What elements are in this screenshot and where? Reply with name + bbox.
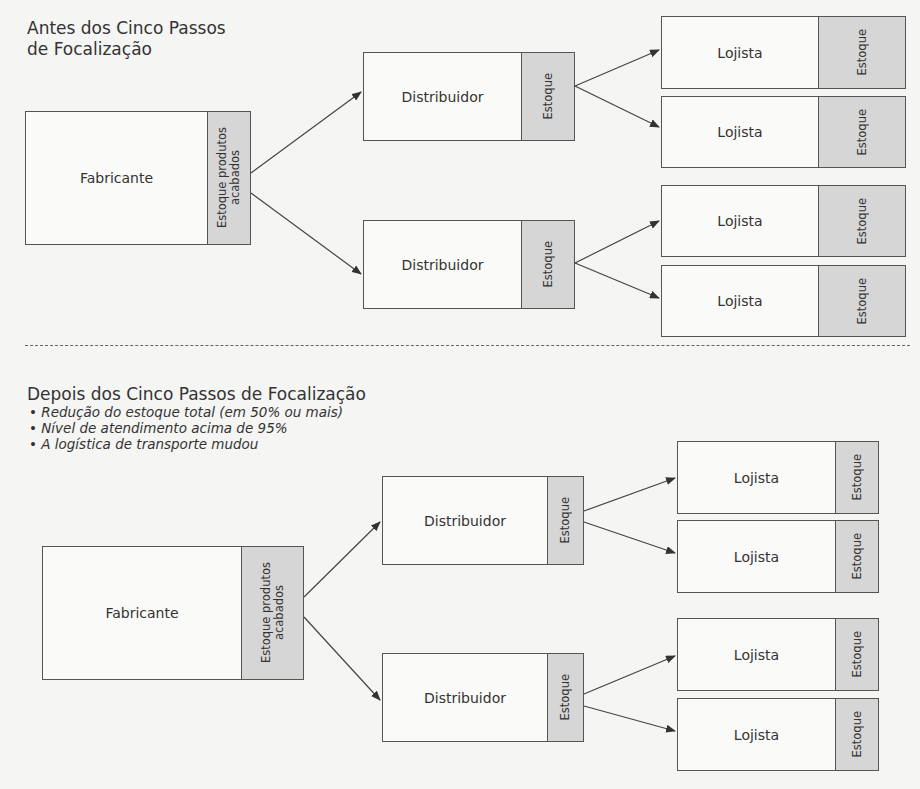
retailer-stock: Estoque — [818, 186, 905, 256]
stock-label: Estoque — [856, 29, 869, 75]
arrow-icon — [584, 656, 675, 694]
distributor-stock: Estoque — [547, 654, 583, 741]
stock-label: Estoque — [851, 454, 864, 500]
stock-label: Estoque produtos acabados — [216, 127, 242, 228]
retailer-stock: Estoque — [835, 442, 878, 513]
arrow-icon — [584, 522, 675, 553]
retailer-stock: Estoque — [835, 619, 878, 690]
after-distributor-2: Distribuidor Estoque — [382, 653, 584, 742]
distributor-stock: Estoque — [521, 53, 574, 140]
distributor-label: Distribuidor — [383, 654, 547, 741]
before-retailer-2: Lojista Estoque — [661, 96, 906, 168]
after-bullet-list: • Redução do estoque total (em 50% ou ma… — [29, 404, 343, 452]
after-retailer-2: Lojista Estoque — [677, 520, 879, 593]
arrow-icon — [584, 706, 675, 731]
arrow-icon — [304, 617, 380, 700]
arrow-icon — [575, 221, 659, 263]
stock-label: Estoque — [542, 241, 555, 287]
section-divider — [25, 345, 910, 346]
before-retailer-1: Lojista Estoque — [661, 16, 906, 89]
distributor-stock: Estoque — [547, 477, 583, 564]
before-title-line1: Antes dos Cinco Passos — [27, 18, 226, 39]
before-title-line2: de Focalização — [27, 39, 226, 60]
stock-label: Estoque — [559, 674, 572, 720]
arrow-icon — [575, 263, 659, 298]
bullet-item: • A logística de transporte mudou — [29, 436, 343, 452]
retailer-label: Lojista — [662, 97, 818, 167]
retailer-stock: Estoque — [818, 17, 905, 88]
manufacturer-label: Fabricante — [43, 547, 241, 679]
retailer-label: Lojista — [678, 619, 835, 690]
bullet-item: • Nível de atendimento acima de 95% — [29, 420, 343, 436]
retailer-label: Lojista — [678, 521, 835, 592]
before-retailer-3: Lojista Estoque — [661, 185, 906, 257]
retailer-label: Lojista — [662, 266, 818, 336]
arrow-icon — [251, 92, 361, 173]
stock-label: Estoque — [856, 278, 869, 324]
retailer-stock: Estoque — [835, 699, 878, 770]
arrow-icon — [575, 86, 659, 127]
stock-label: Estoque — [559, 497, 572, 543]
after-retailer-4: Lojista Estoque — [677, 698, 879, 771]
before-retailer-4: Lojista Estoque — [661, 265, 906, 337]
before-distributor-1: Distribuidor Estoque — [363, 52, 575, 141]
retailer-label: Lojista — [678, 699, 835, 770]
manufacturer-label: Fabricante — [26, 112, 207, 244]
stock-label: Estoque produtos acabados — [260, 562, 286, 663]
after-manufacturer-node: Fabricante Estoque produtos acabados — [42, 546, 304, 680]
arrow-icon — [584, 478, 675, 511]
bullet-item: • Redução do estoque total (em 50% ou ma… — [29, 404, 343, 420]
stock-label: Estoque — [851, 631, 864, 677]
retailer-stock: Estoque — [835, 521, 878, 592]
before-title: Antes dos Cinco Passos de Focalização — [27, 18, 226, 60]
after-retailer-1: Lojista Estoque — [677, 441, 879, 514]
after-distributor-1: Distribuidor Estoque — [382, 476, 584, 565]
retailer-label: Lojista — [678, 442, 835, 513]
distributor-stock: Estoque — [521, 221, 574, 308]
before-distributor-2: Distribuidor Estoque — [363, 220, 575, 309]
arrow-icon — [575, 50, 659, 86]
stock-label: Estoque — [856, 198, 869, 244]
retailer-stock: Estoque — [818, 97, 905, 167]
after-title: Depois dos Cinco Passos de Focalização — [27, 384, 366, 405]
after-retailer-3: Lojista Estoque — [677, 618, 879, 691]
retailer-label: Lojista — [662, 186, 818, 256]
finished-goods-stock: Estoque produtos acabados — [207, 112, 250, 244]
distributor-label: Distribuidor — [364, 53, 521, 140]
stock-label: Estoque — [542, 73, 555, 119]
distributor-label: Distribuidor — [364, 221, 521, 308]
retailer-label: Lojista — [662, 17, 818, 88]
stock-label: Estoque — [851, 711, 864, 757]
finished-goods-stock: Estoque produtos acabados — [241, 547, 303, 679]
distributor-label: Distribuidor — [383, 477, 547, 564]
arrow-icon — [251, 193, 361, 274]
arrow-icon — [304, 522, 380, 597]
retailer-stock: Estoque — [818, 266, 905, 336]
before-manufacturer-node: Fabricante Estoque produtos acabados — [25, 111, 251, 245]
stock-label: Estoque — [856, 109, 869, 155]
stock-label: Estoque — [851, 533, 864, 579]
